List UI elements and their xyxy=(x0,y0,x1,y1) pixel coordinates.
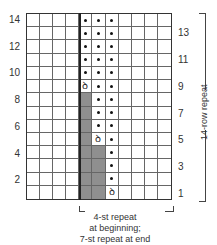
chart-cell xyxy=(27,14,40,27)
chart-cell xyxy=(40,54,53,67)
chart-cell xyxy=(27,120,40,133)
chart-cell xyxy=(158,80,171,93)
chart-cell xyxy=(66,133,79,146)
chart-cell xyxy=(119,27,132,40)
chart-cell xyxy=(145,80,158,93)
purl-dot-icon xyxy=(92,120,105,133)
row-repeat-label: 14-row repeat xyxy=(199,84,209,140)
chart-cell xyxy=(158,54,171,67)
chart-cell xyxy=(53,107,66,120)
purl-dot-icon xyxy=(92,27,105,40)
chart-cell xyxy=(27,80,40,93)
chart-cell xyxy=(119,54,132,67)
chart-cell xyxy=(119,120,132,133)
chart-cell xyxy=(40,186,53,199)
row-number: 10 xyxy=(3,67,20,78)
chart-cell xyxy=(40,40,53,53)
chart-cell xyxy=(132,133,145,146)
chart-cell xyxy=(40,133,53,146)
chart-cell xyxy=(158,173,171,186)
chart-cell xyxy=(27,173,40,186)
chart-cell xyxy=(27,107,40,120)
purl-dot-icon xyxy=(106,80,119,93)
chart-cell xyxy=(53,93,66,106)
chart-cell xyxy=(66,146,79,159)
chart-cell xyxy=(92,159,105,172)
purl-dot-icon xyxy=(106,146,119,159)
chart-cell xyxy=(158,27,171,40)
purl-dot-icon xyxy=(92,107,105,120)
chart-cell xyxy=(132,14,145,27)
chart-cell xyxy=(40,80,53,93)
chart-cell: ꝺ xyxy=(92,133,105,146)
knitting-chart: ꝺꝺꝺ xyxy=(26,13,172,200)
purl-dot-icon xyxy=(106,67,119,80)
chart-cell xyxy=(158,146,171,159)
row-number: 13 xyxy=(178,27,189,38)
purl-dot-icon xyxy=(79,40,92,53)
chart-grid: ꝺꝺꝺ xyxy=(26,13,172,200)
chart-cell xyxy=(119,80,132,93)
chart-cell xyxy=(158,14,171,27)
chart-cell xyxy=(40,146,53,159)
chart-cell xyxy=(132,107,145,120)
row-number: 2 xyxy=(3,174,20,185)
chart-cell xyxy=(66,120,79,133)
chart-cell xyxy=(27,67,40,80)
row-number: 12 xyxy=(3,41,20,52)
chart-cell xyxy=(66,107,79,120)
chart-cell xyxy=(66,159,79,172)
chart-cell xyxy=(79,159,92,172)
purl-dot-icon xyxy=(79,54,92,67)
chart-cell xyxy=(145,93,158,106)
chart-cell xyxy=(119,146,132,159)
chart-cell xyxy=(53,54,66,67)
chart-cell xyxy=(132,159,145,172)
row-number: 3 xyxy=(178,161,184,172)
chart-cell xyxy=(119,14,132,27)
purl-dot-icon xyxy=(79,14,92,27)
row-number: 7 xyxy=(178,108,184,119)
chart-cell xyxy=(158,133,171,146)
chart-cell xyxy=(158,67,171,80)
chart-cell xyxy=(66,27,79,40)
chart-cell xyxy=(27,40,40,53)
chart-cell xyxy=(66,54,79,67)
chart-cell xyxy=(92,146,105,159)
stitch-repeat-caption: 4-st repeat at beginning; 7-st repeat at… xyxy=(60,212,170,245)
caption-line-2: at beginning; xyxy=(60,223,170,234)
chart-cell xyxy=(132,54,145,67)
chart-cell xyxy=(145,146,158,159)
chart-cell xyxy=(40,27,53,40)
chart-cell xyxy=(145,27,158,40)
chart-cell xyxy=(53,133,66,146)
chart-cell xyxy=(158,93,171,106)
purl-dot-icon xyxy=(106,133,119,146)
chart-cell xyxy=(132,40,145,53)
chart-cell xyxy=(119,173,132,186)
purl-dot-icon xyxy=(92,93,105,106)
chart-cell xyxy=(145,40,158,53)
chart-cell xyxy=(27,93,40,106)
row-number: 8 xyxy=(3,94,20,105)
chart-cell xyxy=(145,173,158,186)
chart-cell xyxy=(119,186,132,199)
purl-dot-icon xyxy=(106,27,119,40)
purl-dot-icon xyxy=(92,40,105,53)
chart-cell xyxy=(40,67,53,80)
purl-dot-icon xyxy=(106,173,119,186)
chart-cell xyxy=(145,67,158,80)
chart-cell xyxy=(158,40,171,53)
row-number: 9 xyxy=(178,81,184,92)
chart-cell xyxy=(79,107,92,120)
caption-line-3: 7-st repeat at end xyxy=(60,234,170,245)
purl-dot-icon xyxy=(106,107,119,120)
purl-dot-icon xyxy=(79,27,92,40)
row-number: 1 xyxy=(178,188,184,199)
chart-cell xyxy=(79,93,92,106)
purl-dot-icon xyxy=(92,14,105,27)
chart-cell xyxy=(27,146,40,159)
chart-cell xyxy=(119,107,132,120)
chart-cell xyxy=(66,14,79,27)
chart-cell xyxy=(53,67,66,80)
